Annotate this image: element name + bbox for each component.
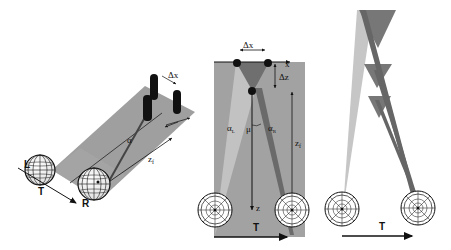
label-delta-x-left: Δx xyxy=(168,70,179,80)
target-cylinder-right xyxy=(173,90,181,114)
label-zf-left: zf xyxy=(148,154,154,165)
label-T-left: T xyxy=(38,186,44,197)
label-R: R xyxy=(82,198,90,209)
label-delta-z: Δz xyxy=(279,72,289,82)
right-eye-wheel-right-panel xyxy=(401,191,435,225)
left-eye-wheel xyxy=(198,193,232,227)
panel-perspective: Δx L T R zf α xyxy=(18,70,195,209)
label-L: L xyxy=(24,159,30,170)
target-right xyxy=(264,59,272,67)
gaze-band-2 xyxy=(374,70,420,205)
label-x-axis: x xyxy=(285,59,290,69)
diagram-canvas: Δx L T R zf α xyxy=(0,0,451,250)
target-left xyxy=(233,59,241,67)
label-alpha-r-left: α xyxy=(127,135,132,145)
left-eye-wheel-right-panel xyxy=(325,192,359,226)
target-cylinder-far xyxy=(150,74,158,100)
label-delta-x: Δx xyxy=(243,40,254,50)
label-z-axis: z xyxy=(256,203,260,213)
panel-multiple-fixation: T xyxy=(325,10,435,236)
label-mu: μ xyxy=(246,124,251,134)
right-eyeball xyxy=(78,168,110,200)
panel-top-view: x Δx Δz z zf αL αR μ xyxy=(198,40,309,237)
label-T-right: T xyxy=(379,221,385,232)
gaze-band-3 xyxy=(375,100,421,205)
right-eye-wheel xyxy=(275,193,309,227)
target-cylinder-near xyxy=(143,95,152,121)
label-T-middle: T xyxy=(253,222,259,233)
